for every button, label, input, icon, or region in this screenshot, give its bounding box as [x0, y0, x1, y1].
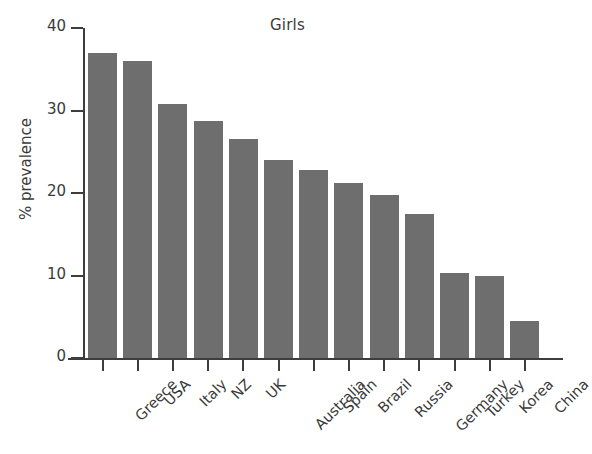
- y-tick-mark: [71, 275, 83, 277]
- y-tick-label: 40: [18, 19, 66, 34]
- y-tick-label: 20: [18, 184, 66, 199]
- x-tick-label: Russia: [412, 376, 456, 420]
- x-tick-label: Italy: [196, 376, 230, 410]
- plot-area: [84, 28, 560, 358]
- bar: [334, 183, 363, 358]
- bar: [229, 139, 258, 358]
- x-tick-mark: [489, 360, 491, 371]
- bar: [158, 104, 187, 358]
- x-tick-label: China: [551, 376, 592, 417]
- x-tick-mark: [348, 360, 350, 371]
- x-tick-mark: [137, 360, 139, 371]
- y-tick-label: 30: [18, 102, 66, 117]
- y-axis-label: % prevalence: [17, 39, 35, 299]
- bar: [440, 273, 469, 358]
- x-tick-mark: [454, 360, 456, 371]
- x-tick-label: NZ: [228, 376, 254, 402]
- y-tick-mark: [71, 192, 83, 194]
- bar: [475, 276, 504, 359]
- bar: [88, 53, 117, 358]
- x-tick-label: Brazil: [375, 376, 415, 416]
- bar: [510, 321, 539, 358]
- y-tick-mark: [71, 110, 83, 112]
- x-tick-mark: [524, 360, 526, 371]
- y-tick-label: 10: [18, 267, 66, 282]
- x-tick-label: UK: [263, 376, 289, 402]
- bar: [299, 170, 328, 358]
- x-tick-mark: [418, 360, 420, 371]
- x-tick-mark: [383, 360, 385, 371]
- bar: [405, 214, 434, 358]
- x-tick-mark: [278, 360, 280, 371]
- x-tick-mark: [242, 360, 244, 371]
- y-tick-mark: [71, 357, 83, 359]
- x-tick-mark: [313, 360, 315, 371]
- x-tick-mark: [172, 360, 174, 371]
- bar: [123, 61, 152, 358]
- bar: [370, 195, 399, 358]
- bar: [264, 160, 293, 358]
- y-tick-mark: [71, 27, 83, 29]
- x-tick-mark: [207, 360, 209, 371]
- x-tick-mark: [102, 360, 104, 371]
- bar: [194, 121, 223, 358]
- y-tick-label: 0: [18, 349, 66, 364]
